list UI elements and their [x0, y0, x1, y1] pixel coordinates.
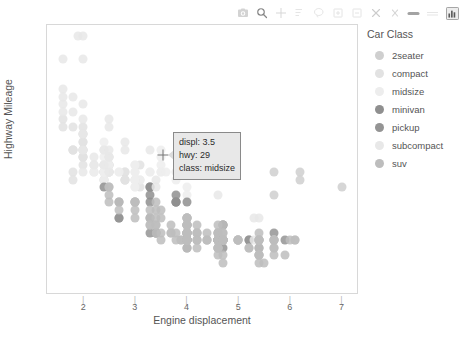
scatter-point[interactable]: [105, 183, 114, 192]
legend-item-minivan[interactable]: minivan: [365, 100, 465, 118]
scatter-point[interactable]: [172, 236, 181, 245]
scatter-point[interactable]: [58, 107, 67, 116]
scatter-point[interactable]: [79, 168, 88, 177]
scatter-point[interactable]: [115, 168, 124, 177]
scatter-point[interactable]: [156, 236, 165, 245]
legend-item-pickup[interactable]: pickup: [365, 118, 465, 136]
legend-item-2seater[interactable]: 2seater: [365, 46, 465, 64]
scatter-point[interactable]: [115, 205, 124, 214]
scatter-point[interactable]: [151, 228, 160, 237]
camera-icon[interactable]: [233, 4, 252, 22]
scatter-point[interactable]: [182, 198, 191, 207]
scatter-point[interactable]: [58, 54, 67, 63]
legend-item-compact[interactable]: compact: [365, 64, 465, 82]
scatter-point[interactable]: [234, 236, 243, 245]
pan-icon[interactable]: [271, 4, 290, 22]
modebar-group-zoom: [328, 4, 404, 22]
tooltip-hwy: hwy: 29: [179, 149, 235, 162]
scatter-point[interactable]: [218, 236, 227, 245]
scatter-point[interactable]: [105, 168, 114, 177]
hover-tooltip: displ: 3.5 hwy: 29 class: midsize: [173, 132, 241, 180]
zoom-icon[interactable]: [252, 4, 271, 22]
autoscale-icon[interactable]: [366, 4, 385, 22]
lasso-select-icon[interactable]: [309, 4, 328, 22]
legend-item-label: compact: [392, 68, 428, 79]
scatter-point[interactable]: [79, 115, 88, 124]
legend-item-label: minivan: [392, 104, 425, 115]
scatter-point[interactable]: [79, 145, 88, 154]
scatter-point[interactable]: [68, 107, 77, 116]
plotly-modebar[interactable]: [233, 4, 462, 22]
scatter-point[interactable]: [79, 54, 88, 63]
scatter-point[interactable]: [192, 243, 201, 252]
scatter-point[interactable]: [203, 236, 212, 245]
scatter-point[interactable]: [296, 175, 305, 184]
plotly-logo-icon[interactable]: [442, 4, 462, 22]
legend-item-label: subcompact: [392, 140, 443, 151]
scatter-point[interactable]: [68, 145, 77, 154]
legend-swatch-icon: [375, 87, 384, 96]
scatter-point[interactable]: [68, 122, 77, 131]
scatter-point[interactable]: [105, 145, 114, 154]
scatter-point[interactable]: [79, 32, 88, 41]
zoom-in-icon[interactable]: [328, 4, 347, 22]
tooltip-class: class: midsize: [179, 162, 235, 175]
scatter-point[interactable]: [270, 243, 279, 252]
scatter-point[interactable]: [182, 221, 191, 230]
scatter-point[interactable]: [146, 145, 155, 154]
scatter-point[interactable]: [58, 122, 67, 131]
zoom-select-box-icon[interactable]: [290, 4, 309, 22]
scatter-point[interactable]: [172, 198, 181, 207]
legend-item-subcompact[interactable]: subcompact: [365, 136, 465, 154]
scatter-point[interactable]: [270, 168, 279, 177]
scatter-point[interactable]: [249, 213, 258, 222]
hover-compare-icon[interactable]: [423, 4, 442, 22]
legend-swatch-icon: [375, 105, 384, 114]
scatter-point[interactable]: [182, 243, 191, 252]
toggle-spike-lines-icon[interactable]: [404, 4, 423, 22]
zoom-out-icon[interactable]: [347, 4, 366, 22]
legend-items: 2seatercompactmidsizeminivanpickupsubcom…: [365, 46, 465, 172]
x-axis-tick-label: |7: [339, 298, 344, 312]
scatter-point[interactable]: [130, 160, 139, 169]
scatter-point[interactable]: [120, 175, 129, 184]
scatter-point[interactable]: [130, 213, 139, 222]
scatter-point[interactable]: [120, 145, 129, 154]
scatter-point[interactable]: [130, 175, 139, 184]
scatter-point[interactable]: [58, 92, 67, 101]
x-axis-tick-label: |3: [132, 298, 137, 312]
scatter-point[interactable]: [151, 183, 160, 192]
scatter-point[interactable]: [192, 228, 201, 237]
plotly-figure: Highway Mileage Engine displacement 20–3…: [0, 0, 466, 343]
scatter-point[interactable]: [270, 190, 279, 199]
scatter-point[interactable]: [105, 198, 114, 207]
modebar-group-drag: [252, 4, 328, 22]
legend-swatch-icon: [375, 123, 384, 132]
scatter-point[interactable]: [213, 190, 222, 199]
y-axis-title: Highway Mileage: [2, 79, 14, 159]
tooltip-displ: displ: 3.5: [179, 136, 235, 149]
scatter-point[interactable]: [218, 258, 227, 267]
legend-swatch-icon: [375, 51, 384, 60]
scatter-point[interactable]: [89, 160, 98, 169]
scatter-point[interactable]: [68, 175, 77, 184]
scatter-point[interactable]: [285, 236, 294, 245]
modebar-group-hover: [404, 4, 442, 22]
legend-item-midsize[interactable]: midsize: [365, 82, 465, 100]
scatter-point[interactable]: [244, 243, 253, 252]
legend-item-suv[interactable]: suv: [365, 154, 465, 172]
scatter-point[interactable]: [68, 92, 77, 101]
scatter-point[interactable]: [79, 100, 88, 109]
scatter-point[interactable]: [280, 251, 289, 260]
x-axis-title: Engine displacement: [46, 314, 358, 326]
legend-swatch-icon: [375, 141, 384, 150]
modebar-group-download: [233, 4, 252, 22]
scatter-point[interactable]: [337, 183, 346, 192]
scatter-point[interactable]: [79, 130, 88, 139]
reset-axes-icon[interactable]: [385, 4, 404, 22]
legend-item-label: midsize: [392, 86, 424, 97]
scatter-point[interactable]: [105, 122, 114, 131]
scatter-point[interactable]: [161, 168, 170, 177]
scatter-point[interactable]: [260, 258, 269, 267]
legend-swatch-icon: [375, 69, 384, 78]
